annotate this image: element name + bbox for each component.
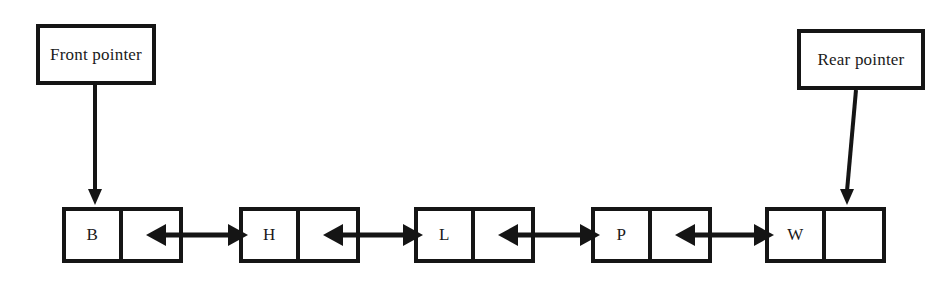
pointer-arrows bbox=[88, 85, 856, 205]
rear-pointer-box: Rear pointer bbox=[797, 29, 925, 90]
node-value: W bbox=[787, 225, 803, 245]
rear-pointer-label: Rear pointer bbox=[818, 50, 905, 70]
node-data-cell: B bbox=[66, 211, 123, 259]
node-data-cell: H bbox=[243, 211, 300, 259]
front-pointer-box: Front pointer bbox=[36, 24, 156, 85]
node-data-cell: L bbox=[418, 211, 475, 259]
node-link-cell bbox=[652, 211, 709, 259]
list-node: L bbox=[414, 207, 535, 263]
front-pointer-label: Front pointer bbox=[50, 45, 142, 65]
node-data-cell: W bbox=[769, 211, 826, 259]
node-link-cell bbox=[826, 211, 883, 259]
linked-list-diagram: Front pointer Rear pointer B H L P bbox=[0, 0, 946, 293]
node-link-cell bbox=[475, 211, 532, 259]
list-node: P bbox=[591, 207, 712, 263]
node-value: P bbox=[617, 225, 626, 245]
node-value: H bbox=[263, 225, 275, 245]
node-data-cell: P bbox=[595, 211, 652, 259]
node-value: L bbox=[439, 225, 449, 245]
node-link-cell bbox=[123, 211, 180, 259]
list-node: W bbox=[765, 207, 886, 263]
node-value: B bbox=[87, 225, 98, 245]
node-link-cell bbox=[300, 211, 357, 259]
list-node: H bbox=[239, 207, 360, 263]
list-node: B bbox=[62, 207, 183, 263]
